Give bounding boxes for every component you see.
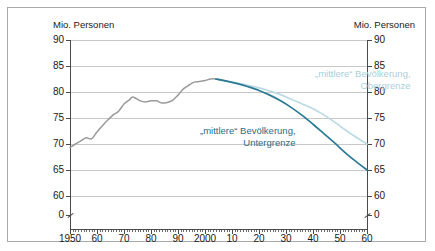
x-axis-tick-label: 60 (361, 234, 372, 244)
x-axis-tick-label: 1950 (59, 234, 81, 244)
y-axis-tick-label-left: 75 (24, 113, 64, 123)
y-axis-tick-label-right: 0 (374, 210, 414, 220)
annotation-upper-line2: Obergrenze (315, 80, 411, 92)
x-axis-tick-label: 80 (145, 234, 156, 244)
y-axis-tick-label-right: 75 (374, 113, 414, 123)
x-axis-tick-label: 2000 (194, 234, 216, 244)
y-axis-left-unit-label: Mio. Personen (53, 19, 114, 30)
y-axis-tick-label-left: 90 (24, 35, 64, 45)
y-axis-tick-mark (368, 196, 372, 197)
y-axis-tick-label-right: 60 (374, 191, 414, 201)
annotation-lower-line2: Untergrenze (200, 137, 296, 149)
y-axis-tick-label-right: 70 (374, 139, 414, 149)
y-axis-tick-label-right: 90 (374, 35, 414, 45)
x-axis-line (70, 229, 368, 230)
y-axis-tick-mark (368, 40, 372, 41)
x-axis-tick-label: 90 (172, 234, 183, 244)
y-axis-tick-label-left: 0 (24, 210, 64, 220)
annotation-lower-line1: „mittlere“ Bevölkerung, (200, 125, 296, 137)
x-axis-tick-label: 50 (334, 234, 345, 244)
x-axis-tick-label: 10 (226, 234, 237, 244)
x-axis-tick-label: 70 (118, 234, 129, 244)
y-axis-tick-mark (368, 66, 372, 67)
y-axis-tick-label-left: 65 (24, 165, 64, 175)
x-axis-tick-label: 30 (280, 234, 291, 244)
annotation-upper-bound: „mittlere“ Bevölkerung, Obergrenze (315, 68, 411, 91)
chart-frame: Mio. Personen Mio. Personen 006060656570… (7, 7, 426, 242)
annotation-lower-bound: „mittlere“ Bevölkerung, Untergrenze (200, 125, 296, 148)
y-axis-tick-label-left: 60 (24, 191, 64, 201)
y-axis-tick-label-left: 85 (24, 61, 64, 71)
plot-area: 006060656570707575808085859090 195060708… (70, 40, 368, 215)
y-axis-right-unit-label: Mio. Personen (354, 19, 415, 30)
y-axis-tick-mark (368, 144, 372, 145)
y-axis-tick-label-left: 70 (24, 139, 64, 149)
y-axis-tick-label-right: 65 (374, 165, 414, 175)
x-axis-tick-label: 40 (307, 234, 318, 244)
y-axis-tick-mark (368, 92, 372, 93)
x-axis-tick-label: 20 (253, 234, 264, 244)
y-axis-tick-label-left: 80 (24, 87, 64, 97)
annotation-upper-line1: „mittlere“ Bevölkerung, (315, 68, 411, 80)
y-axis-tick-mark (368, 118, 372, 119)
x-axis-tick-label: 60 (91, 234, 102, 244)
y-axis-tick-mark (368, 170, 372, 171)
